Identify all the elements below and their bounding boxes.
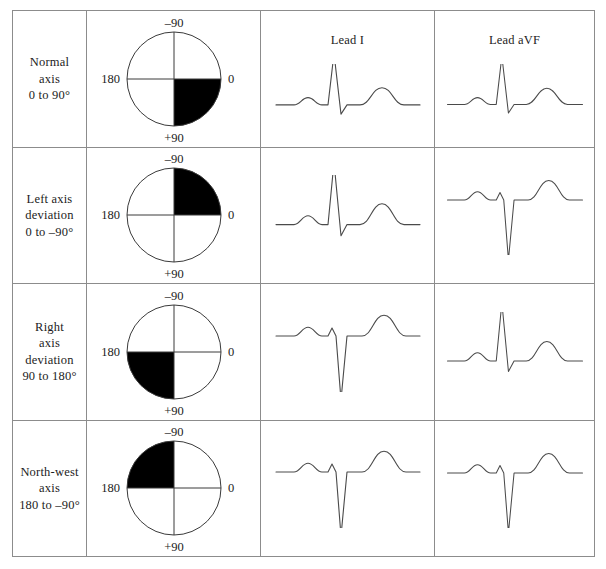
row-label-line: deviation [13,207,86,224]
ecg-trace-lead1 [261,421,434,557]
ecg-waveform-svg [268,175,428,255]
table-row: North-west axis 180 to –90° –90+901800 [13,420,595,557]
svg-text:0: 0 [228,345,234,359]
row-label-text: Right axis deviation 90 to 180° [13,319,86,385]
row-label-cell: Left axis deviation 0 to –90° [13,147,87,284]
ecg-trace-leadavf [435,284,594,420]
axis-circle-diagram: –90+901800 [87,421,261,557]
ecg-trace-lead1 [261,284,434,420]
row-label-line: Left axis [13,191,86,208]
leadavf-column-header: Lead aVF [489,23,540,48]
row-label-cell: North-west axis 180 to –90° [13,420,87,557]
row-label-line: axis [13,480,86,497]
row-label-line: 180 to –90° [13,497,86,514]
svg-text:180: 180 [101,208,120,222]
svg-text:0: 0 [228,208,234,222]
ecg-waveform-svg [440,64,590,130]
row-label-line: deviation [13,352,86,369]
svg-text:+90: +90 [164,404,184,418]
axis-circle-diagram: –90+901800 [87,148,261,284]
axis-circle-cell: –90+901800 [87,147,261,284]
lead1-cell: Lead I [261,11,435,148]
row-label-cell: Right axis deviation 90 to 180° [13,284,87,421]
ecg-waveform-svg [440,448,590,528]
table-row: Normal axis 0 to 90° –90+901800 Lead I [13,11,595,148]
ecg-trace-lead1 [261,148,434,284]
row-label-line: axis [13,335,86,352]
ecg-trace-leadavf [435,148,594,284]
row-label-cell: Normal axis 0 to 90° [13,11,87,148]
row-label-line: Right [13,319,86,336]
axis-circle-diagram: –90+901800 [87,284,261,420]
lead1-cell [261,147,435,284]
svg-text:0: 0 [228,481,234,495]
svg-text:+90: +90 [164,131,184,145]
row-label-text: Normal axis 0 to 90° [13,54,86,104]
table-row: Right axis deviation 90 to 180° –90+9018… [13,284,595,421]
svg-text:+90: +90 [164,540,184,554]
svg-text:180: 180 [101,481,120,495]
ecg-waveform-svg [268,448,428,528]
quadrant-circle-svg: –90+901800 [87,422,261,554]
axis-circle-diagram: –90+901800 [87,11,261,147]
cardiac-axis-table: Normal axis 0 to 90° –90+901800 Lead I [12,10,595,557]
table-body: Normal axis 0 to 90° –90+901800 Lead I [13,11,595,557]
quadrant-circle-svg: –90+901800 [87,13,261,145]
axis-circle-cell: –90+901800 [87,11,261,148]
row-label-line: North-west [13,464,86,481]
svg-text:180: 180 [101,345,120,359]
svg-text:+90: +90 [164,267,184,281]
leadavf-cell: Lead aVF [435,11,595,148]
row-label-line: 0 to –90° [13,224,86,241]
ecg-trace-lead1 [261,48,434,147]
row-label-line: Normal [13,54,86,71]
quadrant-circle-svg: –90+901800 [87,149,261,281]
ecg-waveform-svg [440,312,590,392]
row-label-text: Left axis deviation 0 to –90° [13,191,86,241]
ecg-waveform-svg [268,312,428,392]
lead1-column-header: Lead I [331,23,364,48]
row-label-line: 90 to 180° [13,368,86,385]
row-label-line: axis [13,71,86,88]
axis-circle-cell: –90+901800 [87,284,261,421]
table-row: Left axis deviation 0 to –90° –90+901800 [13,147,595,284]
row-label-text: North-west axis 180 to –90° [13,464,86,514]
leadavf-cell [435,420,595,557]
ecg-trace-leadavf [435,48,594,147]
ecg-waveform-svg [440,175,590,255]
figure-root: Normal axis 0 to 90° –90+901800 Lead I [0,0,606,569]
lead1-cell [261,284,435,421]
svg-text:–90: –90 [164,152,184,166]
ecg-waveform-svg [268,64,428,130]
lead1-cell [261,420,435,557]
row-label-line: 0 to 90° [13,87,86,104]
leadavf-cell [435,284,595,421]
svg-text:–90: –90 [164,425,184,439]
svg-text:180: 180 [101,72,120,86]
svg-text:0: 0 [228,72,234,86]
quadrant-circle-svg: –90+901800 [87,286,261,418]
ecg-trace-leadavf [435,421,594,557]
leadavf-cell [435,147,595,284]
svg-text:–90: –90 [164,16,184,30]
svg-text:–90: –90 [164,289,184,303]
axis-circle-cell: –90+901800 [87,420,261,557]
